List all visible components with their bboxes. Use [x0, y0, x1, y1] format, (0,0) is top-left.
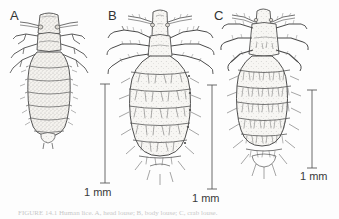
louse-illustrations [0, 0, 339, 219]
panel-label-a: A [10, 8, 19, 23]
scale-bar-c [307, 90, 317, 168]
figure-plate: A B C 1 mm 1 mm 1 mm FIGURE 14.1 Human l… [0, 0, 339, 219]
figure-caption: FIGURE 14.1 Human lice. A, head louse; B… [18, 209, 328, 217]
panel-label-b: B [108, 8, 117, 23]
specimen-b-drawing [107, 10, 214, 185]
scale-label-c: 1 mm [300, 170, 328, 182]
panel-label-c: C [214, 8, 224, 23]
scale-label-a: 1 mm [84, 186, 112, 198]
specimen-a-drawing [10, 13, 88, 149]
scale-bar-b [207, 85, 217, 189]
specimen-c-drawing [221, 9, 308, 179]
scale-label-b: 1 mm [192, 192, 220, 204]
scale-bar-a [100, 84, 110, 183]
